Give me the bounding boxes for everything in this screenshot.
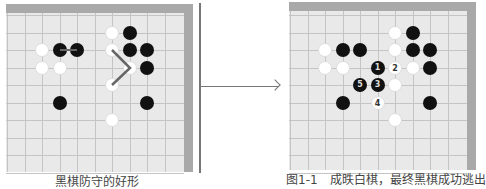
black-stone: [336, 43, 350, 57]
shape-marker-lines: [0, 0, 200, 181]
board-edge-right: [467, 2, 476, 170]
black-stone: 1: [371, 61, 385, 75]
grid-line: [308, 11, 309, 170]
arrow-head-icon: [269, 79, 280, 90]
right-go-board: 12534: [289, 2, 476, 170]
white-stone: [388, 26, 402, 40]
black-stone: 3: [371, 78, 385, 92]
right-caption: 图1-1 成昳白棋，最终黑棋成功逃出: [286, 170, 486, 187]
white-stone: 4: [371, 96, 385, 110]
black-stone: [423, 43, 437, 57]
white-stone: [388, 43, 402, 57]
arrow-shaft: [201, 86, 279, 87]
grid-line: [325, 11, 326, 170]
grid-line: [343, 11, 344, 170]
grid-line: [289, 138, 467, 139]
board-edge-top: [289, 2, 476, 11]
black-stone: [336, 96, 350, 110]
white-stone: [318, 61, 332, 75]
black-stone: [406, 43, 420, 57]
white-stone: 2: [388, 61, 402, 75]
white-stone: [388, 113, 402, 127]
grid-line: [289, 155, 467, 156]
white-stone: [388, 78, 402, 92]
grid-line: [448, 11, 449, 170]
white-stone: [318, 43, 332, 57]
grid-line: [430, 11, 431, 170]
grid-line: [289, 120, 467, 121]
divider-line: [199, 3, 201, 173]
left-caption: 黑棋防守的好形: [55, 172, 139, 189]
black-stone: [423, 96, 437, 110]
black-stone: [406, 26, 420, 40]
black-stone: 5: [353, 78, 367, 92]
black-stone: [423, 61, 437, 75]
black-stone: [353, 43, 367, 57]
marker-chevron: [112, 50, 130, 85]
white-stone: [336, 61, 350, 75]
grid-line: [290, 11, 291, 170]
white-stone: [406, 61, 420, 75]
